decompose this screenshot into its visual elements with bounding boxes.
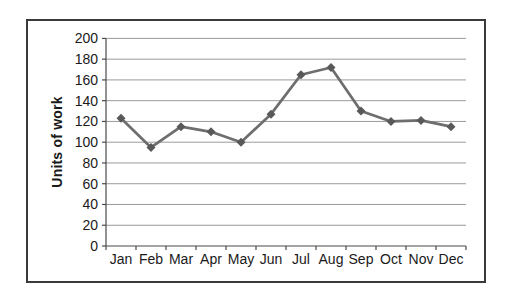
- x-axis-category-label: Feb: [139, 251, 163, 267]
- x-axis-category-label: Jul: [292, 251, 310, 267]
- x-axis-category-label: Oct: [380, 251, 402, 267]
- x-axis-category-label: Nov: [409, 251, 434, 267]
- line-chart: 020406080100120140160180200JanFebMarAprM…: [0, 0, 512, 299]
- y-axis-tick-label: 0: [90, 238, 98, 254]
- x-axis-category-label: Jun: [260, 251, 283, 267]
- y-axis-tick-label: 160: [75, 72, 99, 88]
- y-axis-tick-label: 120: [75, 113, 99, 129]
- x-axis-category-label: Aug: [319, 251, 344, 267]
- x-axis-category-label: Sep: [349, 251, 374, 267]
- y-axis-tick-label: 60: [82, 176, 98, 192]
- y-axis-tick-label: 80: [82, 155, 98, 171]
- data-point-marker: [387, 117, 396, 126]
- y-axis-tick-label: 200: [75, 30, 99, 46]
- data-point-marker: [207, 127, 216, 136]
- chart-canvas: 020406080100120140160180200JanFebMarAprM…: [0, 0, 512, 299]
- x-axis-category-label: Jan: [110, 251, 133, 267]
- y-axis-tick-label: 20: [82, 217, 98, 233]
- data-point-marker: [417, 116, 426, 125]
- y-axis-tick-label: 40: [82, 196, 98, 212]
- data-point-marker: [447, 122, 456, 131]
- y-axis-tick-label: 180: [75, 51, 99, 67]
- x-axis-category-label: Dec: [439, 251, 464, 267]
- x-axis-category-label: Mar: [169, 251, 193, 267]
- y-axis-tick-label: 140: [75, 93, 99, 109]
- x-axis-category-label: Apr: [200, 251, 222, 267]
- y-axis-title: Units of work: [49, 96, 65, 187]
- x-axis-category-label: May: [228, 251, 254, 267]
- y-axis-tick-label: 100: [75, 134, 99, 150]
